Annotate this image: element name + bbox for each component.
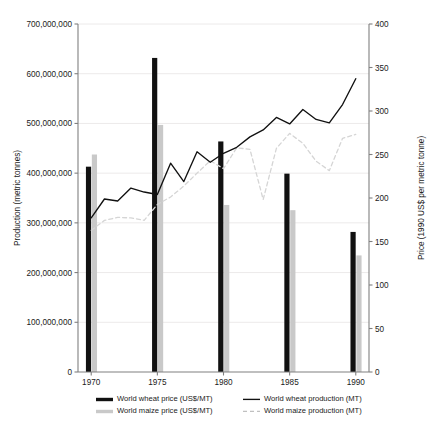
y2-tick-label: 350 — [375, 64, 389, 73]
bar-wheat-price — [152, 58, 157, 372]
bar-maize-price — [356, 255, 361, 372]
x-tick-label: 1975 — [148, 378, 167, 387]
x-tick-label: 1985 — [281, 378, 300, 387]
y-axis-title: Production (metric tonnes) — [13, 150, 22, 246]
bar-maize-price — [290, 210, 295, 372]
legend-swatch-bar — [96, 398, 113, 401]
y-tick-label: 500,000,000 — [26, 119, 72, 128]
y2-axis-title: Price (1990 US$ per metric tonne) — [417, 136, 426, 261]
y-tick-label: 700,000,000 — [26, 20, 72, 29]
legend-label: World wheat price (US$/MT) — [117, 394, 213, 403]
y2-tick-label: 250 — [375, 151, 389, 160]
bar-wheat-price — [284, 174, 289, 372]
legend-label: World maize production (MT) — [264, 406, 362, 415]
bar-wheat-price — [218, 141, 223, 372]
chart-figure: 0100,000,000200,000,000300,000,000400,00… — [0, 0, 438, 430]
y-tick-label: 300,000,000 — [26, 219, 72, 228]
y2-tick-label: 50 — [375, 325, 385, 334]
y-tick-label: 0 — [67, 368, 72, 377]
legend-label: World maize price (US$/MT) — [117, 406, 213, 415]
bar-wheat-price — [350, 232, 355, 372]
y2-tick-label: 400 — [375, 20, 389, 29]
bar-maize-price — [92, 155, 97, 373]
x-tick-label: 1990 — [347, 378, 366, 387]
legend-label: World wheat production (MT) — [264, 394, 362, 403]
y2-tick-label: 200 — [375, 194, 389, 203]
x-tick-label: 1980 — [214, 378, 233, 387]
y2-tick-label: 300 — [375, 107, 389, 116]
y-tick-label: 600,000,000 — [26, 70, 72, 79]
bar-maize-price — [224, 205, 229, 372]
production-price-chart: 0100,000,000200,000,000300,000,000400,00… — [0, 0, 438, 430]
x-tick-label: 1970 — [82, 378, 101, 387]
legend-swatch-bar — [96, 410, 113, 413]
y2-tick-label: 100 — [375, 281, 389, 290]
bar-maize-price — [158, 125, 163, 372]
y2-tick-label: 150 — [375, 238, 389, 247]
y2-tick-label: 0 — [375, 368, 380, 377]
y-tick-label: 200,000,000 — [26, 269, 72, 278]
y-tick-label: 100,000,000 — [26, 318, 72, 327]
y-tick-label: 400,000,000 — [26, 169, 72, 178]
bar-wheat-price — [86, 167, 91, 372]
